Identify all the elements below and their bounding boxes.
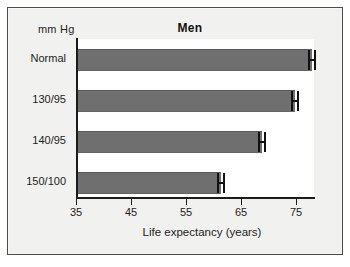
bar	[78, 49, 312, 71]
x-axis-tick	[76, 199, 77, 205]
x-axis-title: Life expectancy (years)	[8, 226, 342, 238]
error-bar-part	[309, 59, 315, 61]
chart-figure: mm Hg Men Life expectancy (years) Normal…	[7, 7, 343, 255]
bar	[78, 90, 295, 112]
category-label: 140/95	[0, 134, 66, 146]
x-axis-tick-label: 35	[56, 206, 96, 218]
error-bar	[258, 131, 266, 153]
x-axis-tick	[131, 199, 132, 205]
bar	[78, 131, 262, 153]
x-axis-tick	[296, 199, 297, 205]
error-bar-part	[218, 182, 224, 184]
error-bar-part	[292, 100, 298, 102]
category-label: 150/100	[0, 175, 66, 187]
x-axis-line	[76, 197, 315, 199]
x-axis-tick-label: 55	[166, 206, 206, 218]
error-bar-part	[259, 141, 265, 143]
bar	[78, 172, 221, 194]
error-bar	[217, 172, 225, 194]
category-label: 130/95	[0, 93, 66, 105]
bar-series	[78, 39, 314, 197]
error-bar	[308, 49, 316, 71]
x-axis-tick	[241, 199, 242, 205]
x-axis-tick-label: 45	[111, 206, 151, 218]
category-label: Normal	[0, 52, 66, 64]
x-axis-tick	[186, 199, 187, 205]
error-bar	[291, 90, 299, 112]
x-axis-tick-label: 65	[221, 206, 261, 218]
x-axis-tick-label: 75	[276, 206, 316, 218]
chart-title-text: Men	[148, 21, 203, 35]
chart-title: Men	[8, 21, 342, 35]
